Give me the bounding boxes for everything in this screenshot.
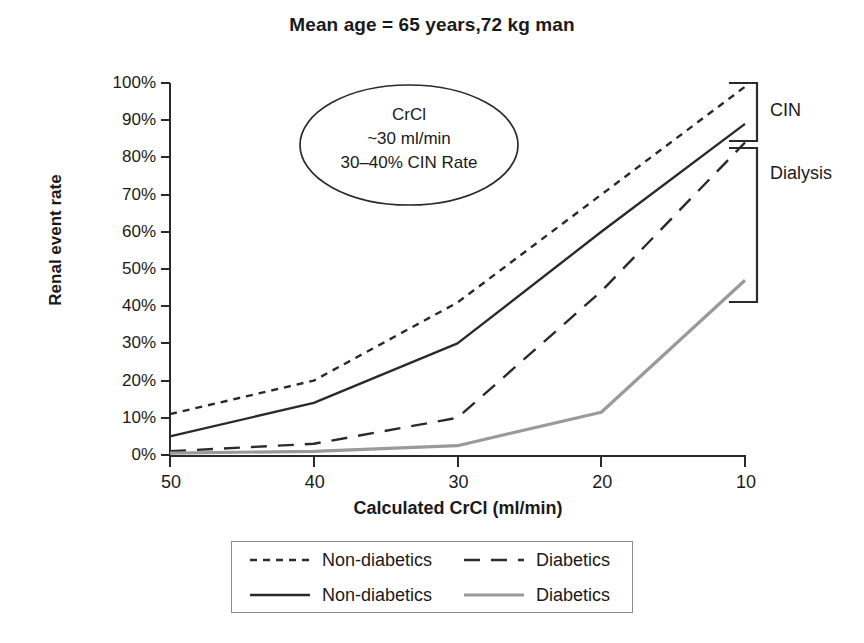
legend-swatch-solid-gray-icon bbox=[464, 588, 524, 602]
y-tick-label-wrap: 50% bbox=[86, 269, 156, 270]
y-tick-label: 50% bbox=[96, 260, 156, 277]
x-tick-mark bbox=[169, 457, 171, 467]
y-axis-title: Renal event rate bbox=[46, 140, 66, 340]
series-line-dialysis-diabetics bbox=[170, 280, 745, 453]
y-tick-label-wrap: 80% bbox=[86, 157, 156, 158]
y-tick-label: 80% bbox=[96, 148, 156, 165]
y-tick-label-wrap: 20% bbox=[86, 381, 156, 382]
y-tick-mark bbox=[161, 156, 170, 158]
y-tick-label-wrap: 60% bbox=[86, 232, 156, 233]
y-tick-mark bbox=[161, 454, 170, 456]
legend-entry[interactable]: Non-diabetics bbox=[232, 542, 460, 578]
x-tick-mark bbox=[313, 457, 315, 467]
y-tick-mark bbox=[161, 82, 170, 84]
crcl-callout-text: CrCl ~30 ml/min 30–40% CIN Rate bbox=[298, 103, 520, 175]
legend-row: Non-diabeticsDiabetics bbox=[232, 577, 634, 613]
y-tick-label-wrap: 30% bbox=[86, 343, 156, 344]
y-tick-label-wrap: 10% bbox=[86, 418, 156, 419]
y-tick-label-wrap: 100% bbox=[86, 83, 156, 84]
y-tick-mark bbox=[161, 231, 170, 233]
y-tick-label-wrap: 40% bbox=[86, 306, 156, 307]
crcl-callout-line3: 30–40% CIN Rate bbox=[298, 151, 520, 175]
legend-entry[interactable]: Diabetics bbox=[460, 542, 634, 578]
bracket-label-cin: CIN bbox=[770, 100, 801, 121]
y-tick-mark bbox=[161, 268, 170, 270]
y-tick-label: 10% bbox=[96, 409, 156, 426]
crcl-callout-annotation: CrCl ~30 ml/min 30–40% CIN Rate bbox=[298, 83, 520, 207]
x-tick-mark bbox=[457, 457, 459, 467]
y-tick-mark bbox=[161, 417, 170, 419]
chart-legend: Non-diabeticsDiabeticsNon-diabeticsDiabe… bbox=[231, 541, 633, 613]
chart-figure: Mean age = 65 years,72 kg man 100%90%80%… bbox=[0, 0, 864, 643]
legend-label: Diabetics bbox=[536, 550, 610, 571]
y-tick-label: 30% bbox=[96, 334, 156, 351]
y-tick-label-wrap: 90% bbox=[86, 120, 156, 121]
legend-entry[interactable]: Non-diabetics bbox=[232, 577, 460, 613]
y-tick-label-wrap: 0% bbox=[86, 455, 156, 456]
y-tick-label-wrap: 70% bbox=[86, 195, 156, 196]
x-tick-label: 30 bbox=[429, 472, 489, 493]
legend-label: Diabetics bbox=[536, 585, 610, 606]
crcl-callout-line1: CrCl bbox=[298, 103, 520, 127]
y-tick-label: 20% bbox=[96, 372, 156, 389]
y-tick-mark bbox=[161, 342, 170, 344]
x-tick-label: 10 bbox=[716, 472, 776, 493]
y-tick-label: 60% bbox=[96, 223, 156, 240]
chart-title: Mean age = 65 years,72 kg man bbox=[0, 14, 864, 36]
legend-swatch-solid-icon bbox=[250, 588, 310, 602]
x-tick-mark bbox=[744, 457, 746, 467]
y-tick-label: 40% bbox=[96, 297, 156, 314]
bracket-label-dialysis: Dialysis bbox=[770, 163, 832, 184]
legend-swatch-dotted-icon bbox=[250, 553, 310, 567]
x-tick-label: 20 bbox=[572, 472, 632, 493]
legend-entry[interactable]: Diabetics bbox=[460, 577, 634, 613]
y-tick-mark bbox=[161, 119, 170, 121]
y-tick-label: 90% bbox=[96, 111, 156, 128]
y-tick-label: 0% bbox=[96, 446, 156, 463]
y-tick-mark bbox=[161, 380, 170, 382]
y-tick-mark bbox=[161, 305, 170, 307]
legend-row: Non-diabeticsDiabetics bbox=[232, 542, 634, 578]
y-tick-mark bbox=[161, 194, 170, 196]
legend-label: Non-diabetics bbox=[322, 585, 432, 606]
y-tick-label: 70% bbox=[96, 186, 156, 203]
crcl-callout-line2: ~30 ml/min bbox=[298, 127, 520, 151]
x-tick-label: 40 bbox=[285, 472, 345, 493]
legend-label: Non-diabetics bbox=[322, 550, 432, 571]
x-axis-title: Calculated CrCl (ml/min) bbox=[170, 498, 746, 519]
legend-swatch-dashed-icon bbox=[464, 553, 524, 567]
x-tick-label: 50 bbox=[141, 472, 201, 493]
x-tick-mark bbox=[600, 457, 602, 467]
y-tick-label: 100% bbox=[96, 74, 156, 91]
